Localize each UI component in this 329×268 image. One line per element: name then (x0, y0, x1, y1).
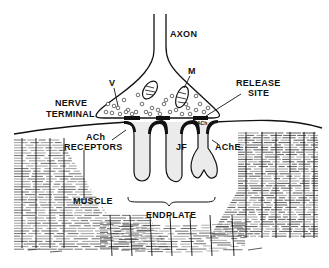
label-vesicle: V (109, 78, 115, 88)
label-junctional-fold: JF (176, 142, 187, 152)
junctional-folds (124, 120, 218, 182)
label-ach-receptors-line1: ACh (86, 132, 105, 142)
release-site (156, 116, 170, 120)
striation (130, 215, 132, 256)
label-ache: AChE (215, 142, 241, 152)
striation (150, 215, 152, 256)
synaptic-vesicle (162, 102, 166, 106)
synaptic-vesicle (194, 94, 198, 98)
label-axon: AXON (170, 29, 197, 39)
synaptic-vesicle (104, 110, 108, 114)
synaptic-vesicle (164, 98, 168, 102)
label-release-site-line1: RELEASE (236, 78, 281, 88)
synaptic-vesicle (118, 112, 122, 116)
striation (110, 215, 112, 256)
striation (248, 248, 262, 250)
label-ach-release: ACh (197, 120, 207, 126)
striation (210, 215, 212, 256)
synaptic-vesicle (134, 110, 138, 114)
label-muscle: MUSCLE (73, 196, 113, 206)
synaptic-vesicle (194, 108, 198, 112)
synaptic-vesicle (180, 112, 184, 116)
leader-line-mitochondrion (184, 76, 190, 88)
label-mitochondrion: M (188, 66, 196, 76)
label-nerve-terminal-line2: TERMINAL (46, 109, 95, 119)
leader-line-ach-receptors (112, 130, 126, 140)
synaptic-vesicle (106, 102, 110, 106)
synaptic-vesicle (158, 112, 162, 116)
synaptic-vesicle (188, 112, 192, 116)
mitochondrion-1 (139, 78, 160, 101)
synaptic-vesicle (110, 111, 114, 115)
synaptic-vesicle (168, 110, 172, 114)
release-site (124, 116, 140, 120)
mitochondrion-2 (173, 85, 191, 109)
striation (190, 215, 192, 256)
synaptic-vesicle (122, 98, 126, 102)
synaptic-vesicle (174, 108, 178, 112)
synaptic-vesicle (202, 110, 206, 114)
label-release-site-line2: SITE (248, 88, 269, 98)
synaptic-vesicle (116, 106, 120, 110)
striation (170, 215, 172, 256)
synaptic-vesicle (144, 110, 148, 114)
synaptic-vesicle (136, 93, 140, 97)
junctional-fold-1 (126, 122, 160, 181)
synaptic-vesicle (150, 106, 154, 110)
synaptic-vesicle (170, 94, 174, 98)
label-ach-receptors-line2: RECEPTORS (64, 142, 123, 152)
synaptic-vesicles (104, 93, 210, 116)
striation (50, 251, 62, 252)
synaptic-vesicle (112, 104, 116, 108)
synaptic-vesicle (140, 102, 144, 106)
synaptic-vesicle (186, 106, 190, 110)
label-endplate: ENDPLATE (146, 210, 196, 220)
synaptic-vesicle (206, 106, 210, 110)
neuromuscular-junction-diagram: AXON M V RELEASE SITE NERVE TERMINAL ACh… (0, 0, 329, 268)
muscle-fibers-bottom (28, 215, 262, 256)
synaptic-vesicle (148, 112, 152, 116)
junctional-fold-3 (191, 122, 217, 178)
label-nerve-terminal-line1: NERVE (55, 98, 87, 108)
synaptic-vesicle (198, 102, 202, 106)
synaptic-vesicle (124, 110, 128, 114)
synaptic-vesicle (156, 108, 160, 112)
synaptic-vesicle (130, 112, 134, 116)
endplate-bracket (128, 197, 215, 206)
